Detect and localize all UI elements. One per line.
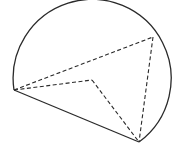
dashed-segment-a-d [14,80,92,90]
dashed-segment-a-c [14,37,153,90]
dashed-segment-c-b [139,37,153,142]
geometry-diagram [0,0,181,153]
chord-a-b [14,90,139,142]
circle-arc [13,0,171,142]
